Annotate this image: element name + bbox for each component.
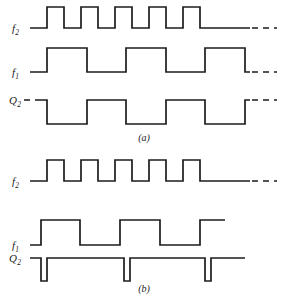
signal-label-f2-panel-a-subscript: 2 [15,28,19,37]
waveform-q2-panel-a [38,100,250,124]
panel-a-waveforms [0,0,288,153]
signal-label-q2-panel-b-base: Q [9,252,17,264]
waveform-f1-panel-a [30,48,250,72]
signal-label-f1-panel-a-subscript: 1 [15,72,19,81]
signal-label-f2-panel-a: f2 [12,23,19,34]
panel-caption-b: (b) [0,283,288,294]
waveform-f1-panel-b [30,220,225,245]
signal-label-f2-panel-b-subscript: 2 [15,181,19,190]
waveform-q2-panel-b [30,258,245,281]
panel-caption-a: (a) [0,132,288,143]
timing-panel-b: f2 f1 Q2 (b) [0,153,288,306]
signal-label-q2-panel-b-subscript: 2 [17,258,21,267]
waveform-f2-panel-b [30,160,250,181]
signal-label-q2-panel-b: Q2 [9,253,21,264]
waveform-f2-panel-a [30,7,250,28]
signal-label-f1-panel-a: f1 [12,67,19,78]
signal-label-f2-panel-b: f2 [12,176,19,187]
signal-label-q2-panel-a: Q2 [9,95,21,106]
timing-panel-a: f2 f1 Q2 (a) [0,0,288,153]
signal-label-f1-panel-b: f1 [12,240,19,251]
timing-diagram-figure: f2 f1 Q2 (a) f2 f1 Q2 (b) [0,0,288,306]
signal-label-q2-panel-a-base: Q [9,94,17,106]
signal-label-q2-panel-a-subscript: 2 [17,100,21,109]
